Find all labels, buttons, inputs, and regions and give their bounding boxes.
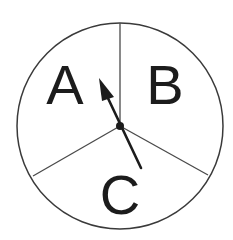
arrowhead-icon (99, 78, 114, 101)
spinner-diagram: A B C (0, 0, 233, 240)
section-label-a: A (46, 53, 84, 116)
pivot-dot (116, 122, 124, 130)
section-label-c: C (100, 163, 140, 226)
section-label-b: B (146, 53, 183, 116)
